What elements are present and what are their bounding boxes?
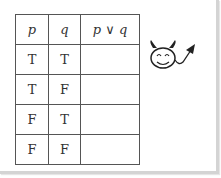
- cell-answer[interactable]: [81, 135, 140, 165]
- cell-p: T: [16, 75, 49, 105]
- cell-q: T: [49, 105, 81, 135]
- cell-answer[interactable]: [81, 45, 140, 75]
- cell-p: F: [16, 135, 49, 165]
- cell-q: T: [49, 45, 81, 75]
- table-row: F F: [16, 135, 140, 165]
- table-row: T F: [16, 75, 140, 105]
- cell-q: F: [49, 135, 81, 165]
- header-p: p: [16, 15, 49, 45]
- table-header-row: p q p ∨ q: [16, 15, 140, 45]
- cell-p: T: [16, 45, 49, 75]
- cell-answer[interactable]: [81, 105, 140, 135]
- cell-answer[interactable]: [81, 75, 140, 105]
- devil-face-icon: [145, 40, 201, 80]
- header-q: q: [49, 15, 81, 45]
- header-p-or-q: p ∨ q: [81, 15, 140, 45]
- cell-q: F: [49, 75, 81, 105]
- cell-p: F: [16, 105, 49, 135]
- table-row: F T: [16, 105, 140, 135]
- table-row: T T: [16, 45, 140, 75]
- truth-table: p q p ∨ q T T T F F T F F: [15, 14, 140, 165]
